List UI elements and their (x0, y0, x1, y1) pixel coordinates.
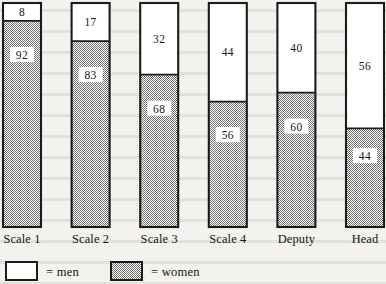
value-label-women: 56 (222, 129, 234, 141)
value-label-men: 8 (19, 6, 25, 18)
value-label-men: 32 (153, 33, 165, 45)
value-label-women: 44 (359, 150, 371, 162)
value-label-men: 44 (222, 46, 234, 58)
bar-group: 89217833268445640605644 (3, 3, 384, 227)
value-label-women: 92 (16, 49, 28, 61)
category-label: Scale 2 (72, 232, 109, 246)
legend-swatch-women (111, 262, 142, 280)
segment-women (346, 128, 384, 227)
segment-women (277, 93, 315, 227)
category-label-group: Scale 1Scale 2Scale 3Scale 4DeputyHead (3, 232, 379, 246)
legend-label-men: = men (46, 265, 79, 279)
value-label-women: 60 (290, 121, 302, 133)
bar-deputy: 4060 (277, 3, 315, 227)
category-label: Head (352, 232, 379, 246)
value-label-women: 83 (84, 69, 96, 81)
category-label: Scale 3 (141, 232, 178, 246)
category-label: Deputy (278, 232, 316, 246)
bar-scale-3: 3268 (140, 3, 178, 227)
legend-swatch-men (6, 262, 37, 280)
value-label-men: 40 (290, 42, 302, 54)
bar-scale-4: 4456 (209, 3, 247, 227)
segment-women (209, 102, 247, 227)
legend: = men = women (6, 262, 200, 280)
bar-scale-1: 892 (3, 3, 41, 227)
stacked-bar-chart: 89217833268445640605644 Scale 1Scale 2Sc… (0, 0, 386, 284)
bar-scale-2: 1783 (72, 3, 110, 227)
value-label-men: 17 (84, 16, 96, 28)
category-label: Scale 4 (209, 232, 246, 246)
value-label-women: 68 (153, 103, 165, 115)
category-label: Scale 1 (3, 232, 40, 246)
segment-women (140, 75, 178, 227)
legend-label-women: = women (151, 265, 200, 279)
value-label-men: 56 (359, 60, 371, 72)
bar-head: 5644 (346, 3, 384, 227)
